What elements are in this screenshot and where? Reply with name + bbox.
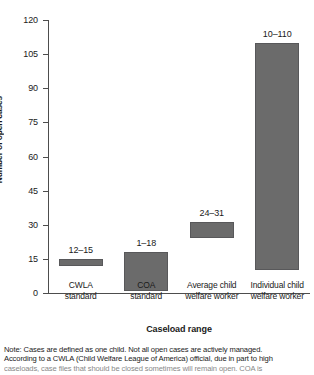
y-axis-tick-label: 0: [0, 289, 38, 298]
y-axis-tick-label: 90: [0, 84, 38, 93]
bar-value-label: 1–18: [106, 239, 186, 248]
y-axis-tick-label: 105: [0, 50, 38, 59]
bar-value-label: 10–110: [237, 30, 314, 39]
note-line-1: Note: Cases are defined as one child. No…: [4, 345, 312, 354]
y-axis-tick: [43, 54, 48, 55]
bar: [59, 259, 103, 266]
chart-figure: Number of open cases 0153045607590105120…: [0, 0, 314, 375]
x-axis-category-label: Individual childwelfare worker: [237, 280, 314, 301]
y-axis-tick: [43, 191, 48, 192]
figure-note: Note: Cases are defined as one child. No…: [4, 345, 312, 373]
note-line-3: caseloads, case files that should be clo…: [4, 364, 312, 373]
x-axis-category-line: Individual child: [237, 280, 314, 291]
y-axis-tick: [43, 20, 48, 21]
x-axis-category-line: welfare worker: [237, 291, 314, 302]
y-axis-tick-label: 60: [0, 153, 38, 162]
y-axis-tick-label: 120: [0, 16, 38, 25]
y-axis-tick: [43, 259, 48, 260]
bar: [255, 43, 299, 271]
y-axis-title: Number of open cases: [0, 96, 8, 183]
y-axis-tick: [43, 122, 48, 123]
y-axis-tick-label: 75: [0, 118, 38, 127]
y-axis-tick-label: 15: [0, 255, 38, 264]
note-line-2: According to a CWLA (Child Welfare Leagu…: [4, 354, 312, 363]
y-axis-tick-label: 45: [0, 187, 38, 196]
plot-area: 0153045607590105120 12–151–1824–3110–110: [48, 20, 310, 293]
y-axis-tick-label: 30: [0, 221, 38, 230]
y-axis-tick: [43, 88, 48, 89]
y-axis-tick: [43, 225, 48, 226]
bar-value-label: 24–31: [172, 209, 252, 218]
y-axis-tick: [43, 157, 48, 158]
bar: [190, 222, 234, 238]
x-axis-title: Caseload range: [48, 324, 310, 334]
